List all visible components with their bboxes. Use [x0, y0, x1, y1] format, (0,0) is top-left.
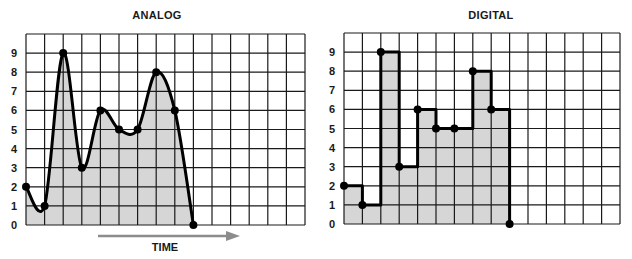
time-axis-label: TIME	[135, 241, 195, 253]
data-point	[469, 67, 477, 75]
data-point	[78, 164, 86, 172]
data-point	[22, 183, 30, 191]
y-tick-label: 4	[329, 142, 336, 154]
data-point	[171, 106, 179, 114]
arrow-head-icon	[226, 231, 240, 241]
digital-chart: 0123456789	[316, 0, 632, 259]
y-tick-label: 8	[11, 66, 17, 78]
data-point	[96, 106, 104, 114]
analog-panel: ANALOG 0123456789 TIME	[0, 0, 316, 259]
y-tick-label: 9	[11, 47, 17, 59]
data-point	[59, 49, 67, 57]
y-tick-label: 9	[329, 46, 335, 58]
area-fill	[344, 52, 510, 224]
y-tick-label: 0	[329, 218, 335, 230]
y-tick-label: 2	[329, 180, 335, 192]
y-tick-label: 1	[11, 200, 17, 212]
y-tick-label: 5	[11, 124, 17, 136]
data-point	[395, 163, 403, 171]
y-tick-label: 8	[329, 65, 335, 77]
data-point	[450, 125, 458, 133]
data-point	[340, 182, 348, 190]
y-tick-label: 6	[329, 103, 335, 115]
data-point	[115, 126, 123, 134]
y-tick-label: 2	[11, 181, 17, 193]
analog-chart: 0123456789	[0, 0, 316, 259]
data-point	[506, 220, 514, 228]
data-point	[414, 105, 422, 113]
data-point	[152, 68, 160, 76]
data-point	[134, 126, 142, 134]
y-tick-label: 6	[11, 104, 17, 116]
y-tick-label: 1	[329, 199, 335, 211]
data-point	[377, 48, 385, 56]
y-tick-label: 7	[329, 84, 335, 96]
y-tick-label: 5	[329, 123, 335, 135]
y-tick-label: 3	[329, 161, 335, 173]
data-point	[41, 202, 49, 210]
y-tick-label: 7	[11, 85, 17, 97]
data-point	[487, 105, 495, 113]
digital-panel: DIGITAL 0123456789	[316, 0, 632, 259]
y-tick-label: 3	[11, 162, 17, 174]
y-tick-label: 0	[11, 219, 17, 231]
data-point	[432, 125, 440, 133]
y-tick-label: 4	[11, 143, 18, 155]
data-point	[189, 221, 197, 229]
data-point	[358, 201, 366, 209]
